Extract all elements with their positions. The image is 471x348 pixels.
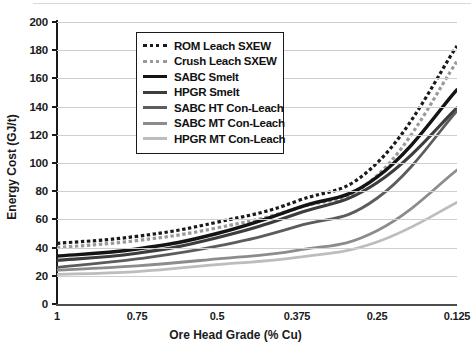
legend-item: ROM Leach SXEW <box>143 38 277 54</box>
x-tick-label: 0.25 <box>367 310 388 322</box>
legend-item: HPGR Smelt <box>143 85 277 101</box>
x-tick-label: 1 <box>54 310 60 322</box>
gridline <box>57 22 457 23</box>
legend-item: SABC Smelt <box>143 69 277 85</box>
legend-swatch-icon <box>143 91 167 94</box>
legend-item: HPGR MT Con-Leach <box>143 131 277 147</box>
legend-label: ROM Leach SXEW <box>174 40 271 52</box>
x-tick-label: 0.125 <box>444 310 471 322</box>
gridline <box>57 219 457 220</box>
legend-item: SABC MT Con-Leach <box>143 116 277 132</box>
legend-swatch-icon <box>143 75 167 78</box>
legend-label: SABC Smelt <box>174 71 239 83</box>
legend-label: HPGR MT Con-Leach <box>174 133 285 145</box>
legend-swatch-icon <box>143 44 167 47</box>
x-axis-title: Ore Head Grade (% Cu) <box>0 328 471 342</box>
legend-swatch-icon <box>143 106 167 109</box>
legend-swatch-icon <box>143 137 167 140</box>
legend-label: SABC MT Con-Leach <box>174 117 285 129</box>
x-tick-label: 0.5 <box>210 310 225 322</box>
legend-item: SABC HT Con-Leach <box>143 100 277 116</box>
gridline <box>57 163 457 164</box>
y-tick-label: 0 <box>0 298 48 310</box>
gridline <box>57 276 457 277</box>
legend-label: Crush Leach SXEW <box>174 55 277 67</box>
legend-swatch-icon <box>143 60 167 63</box>
gridline <box>57 191 457 192</box>
chart-legend: ROM Leach SXEWCrush Leach SXEWSABC Smelt… <box>136 32 284 154</box>
y-tick-label: 200 <box>0 16 48 28</box>
x-tick-label: 0.75 <box>127 310 148 322</box>
x-tick-label: 0.375 <box>284 310 311 322</box>
legend-label: HPGR Smelt <box>174 86 239 98</box>
energy-cost-line-chart: 020406080100120140160180200 Energy Cost … <box>0 0 471 348</box>
legend-item: Crush Leach SXEW <box>143 54 277 70</box>
gridline <box>57 248 457 249</box>
x-axis-line <box>56 304 457 306</box>
y-axis-title: Energy Cost (GJ/t) <box>5 37 19 297</box>
legend-label: SABC HT Con-Leach <box>174 102 283 114</box>
legend-swatch-icon <box>143 122 167 125</box>
